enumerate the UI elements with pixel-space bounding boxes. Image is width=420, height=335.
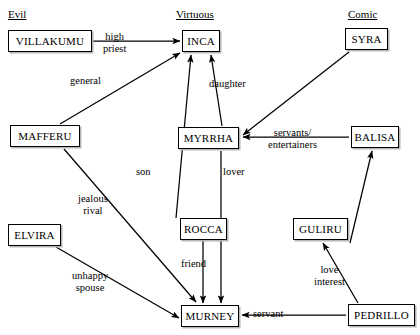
edge-mafferu-inca — [60, 53, 180, 124]
node-murney[interactable]: MURNEY — [181, 305, 239, 327]
node-balisa[interactable]: BALISA — [351, 126, 399, 148]
edge-label-love-interest: love interest — [314, 264, 345, 288]
node-myrrha[interactable]: MYRRHA — [178, 127, 239, 149]
column-header-virtuous: Virtuous — [176, 8, 214, 20]
edge-label-high-priest: high priest — [103, 31, 126, 55]
node-syra[interactable]: SYRA — [345, 28, 388, 50]
edge-label-general: general — [70, 75, 101, 87]
edge-label-son: son — [136, 166, 151, 178]
node-mafferu[interactable]: MAFFERU — [10, 125, 80, 147]
edge-guliru-balisa — [350, 151, 372, 243]
edge-label-friend: friend — [181, 258, 206, 270]
node-elvira[interactable]: ELVIRA — [8, 224, 61, 246]
edge-syra-myrrha — [243, 52, 349, 135]
node-guliru[interactable]: GULIRU — [293, 218, 348, 240]
node-inca[interactable]: INCA — [182, 30, 220, 52]
column-header-comic: Comic — [348, 8, 377, 20]
node-rocca[interactable]: ROCCA — [180, 218, 227, 240]
edge-label-jealous-rival: jealous rival — [78, 193, 108, 217]
column-header-evil: Evil — [8, 8, 26, 20]
edge-label-servants-entertainers: servants/ entertainers — [268, 127, 317, 151]
node-villakumu[interactable]: VILLAKUMU — [8, 30, 92, 52]
edge-myrrha-inca — [211, 55, 222, 126]
node-pedrillo[interactable]: PEDRILLO — [348, 304, 415, 326]
edge-label-servant: servant — [253, 308, 283, 320]
edge-label-daughter: daughter — [209, 78, 246, 90]
edge-label-lover: lover — [223, 166, 245, 178]
relationship-diagram: Evil Virtuous Comic VILLAKUMU MAFFERU EL… — [0, 0, 420, 335]
edge-label-unhappy-spouse: unhappy spouse — [72, 270, 108, 294]
